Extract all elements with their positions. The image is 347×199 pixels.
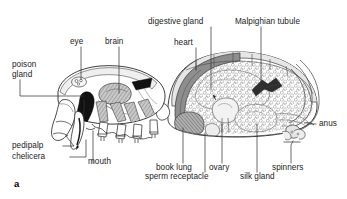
panel-letter: a — [14, 178, 19, 189]
label-pedipalp: pedipalp — [12, 141, 43, 151]
label-silk-gland: silk gland — [240, 172, 275, 182]
label-malpighian-tubule: Malpighian tubule — [235, 17, 300, 27]
label-poison-gland: poison gland — [12, 60, 36, 79]
label-book-lung: book lung — [156, 163, 192, 173]
mouth-opening — [86, 128, 95, 130]
cephalothorax-group — [52, 66, 166, 150]
label-eye: eye — [70, 37, 83, 47]
label-anus: anus — [319, 119, 337, 129]
label-sperm-receptacle: sperm receptacle — [145, 172, 209, 182]
label-ovary: ovary — [209, 163, 229, 173]
spider-anatomy-figure: poison gland eye brain heart digestive g… — [0, 0, 347, 199]
label-spinners: spinners — [272, 163, 303, 173]
abdomen-group — [168, 50, 320, 140]
label-brain: brain — [105, 37, 123, 47]
label-mouth: mouth — [88, 157, 111, 167]
label-digestive-gland: digestive gland — [148, 17, 203, 27]
eye-group — [72, 77, 87, 87]
leader-spinners — [291, 141, 293, 163]
label-chelicera: chelicera — [12, 152, 45, 162]
label-heart: heart — [174, 38, 193, 48]
book-lung — [175, 112, 204, 136]
silk-gland-cluster — [235, 104, 277, 132]
